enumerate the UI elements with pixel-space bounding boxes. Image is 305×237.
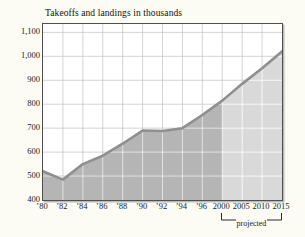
projected-bracket-label-wrap: projected [221,212,282,230]
x-axis-label: 2015 [266,201,296,211]
projected-label: projected [236,219,268,228]
y-axis-label: 900 [0,74,40,84]
chart-title: Takeoffs and landings in thousands [45,8,182,18]
y-axis-label: 700 [0,122,40,132]
takeoffs-landings-chart: Takeoffs and landings in thousands 40050… [0,0,305,237]
y-axis-label: 1,000 [0,50,40,60]
area-chart [43,24,282,200]
y-axis-label: 1,100 [0,26,40,36]
y-axis-label: 500 [0,170,40,180]
y-axis-label: 800 [0,98,40,108]
y-axis-label: 600 [0,146,40,156]
plot-area [42,23,283,201]
